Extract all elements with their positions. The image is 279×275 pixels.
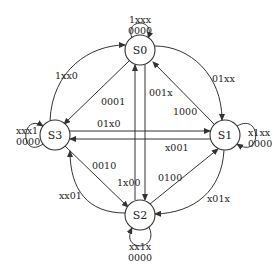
state-s3: S3 [40, 120, 70, 150]
state-diagram: S0 S1 S2 S3 1xxx 0000 x1xx 0000 xx1x 000… [0, 0, 279, 275]
edge-label-xx01: xx01 [59, 190, 82, 201]
edge-label-1x00: 1x00 [117, 177, 141, 188]
edge-label-x001: x001 [165, 142, 189, 153]
state-s0: S0 [125, 35, 155, 65]
state-s2-label: S2 [133, 209, 148, 222]
state-s0-label: S0 [133, 44, 148, 57]
edge-label-01xx: 01xx [212, 73, 235, 84]
s0-loop-output: 0000 [128, 25, 152, 36]
state-s1: S1 [210, 120, 240, 150]
edge-label-x01x: x01x [207, 193, 230, 204]
s2-loop-output: 0000 [128, 252, 152, 263]
edge-label-0010: 0010 [92, 160, 116, 171]
s3-loop-output: 0000 [16, 136, 40, 147]
s3-loop-input: xxx1 [16, 125, 38, 136]
edge-label-0001: 0001 [101, 96, 125, 107]
edge-label-1000: 1000 [173, 106, 197, 117]
s0-loop-input: 1xxx [129, 14, 152, 25]
s1-loop-input: x1xx [248, 127, 271, 138]
edge-label-1xx0: 1xx0 [55, 70, 78, 81]
s1-loop-output: 0000 [248, 138, 272, 149]
edge-label-001x: 001x [149, 87, 173, 98]
edge-label-01x0: 01x0 [97, 118, 121, 129]
edge-label-0100: 0100 [158, 172, 182, 183]
s2-loop-input: xx1x [129, 241, 152, 252]
edge-s3-s0 [50, 45, 125, 121]
state-s2: S2 [125, 200, 155, 230]
state-s3-label: S3 [48, 129, 63, 142]
state-s1-label: S1 [218, 129, 233, 142]
